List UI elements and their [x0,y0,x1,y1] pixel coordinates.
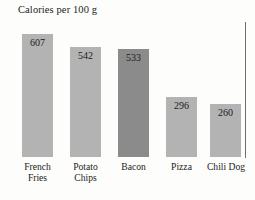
plot-area: 607French Fries542Potato Chips533Bacon29… [0,0,255,200]
bar-series: 607French Fries542Potato Chips533Bacon29… [0,0,255,200]
bar: 296 [166,97,197,157]
bar-value-label: 260 [210,107,241,118]
bar-value-label: 296 [166,100,197,111]
bar: 260 [210,104,241,157]
category-label: Chili Dog [200,161,252,172]
category-label: French Fries [14,161,61,183]
bar-value-label: 607 [22,37,53,48]
bar: 607 [22,34,53,157]
category-label: Potato Chips [62,161,109,183]
bar-chart-figure: Calories per 100 g 607French Fries542Pot… [0,0,255,200]
bar-value-label: 533 [118,52,149,63]
category-label: Pizza [158,161,205,172]
bar: 533 [118,49,149,157]
bar-value-label: 542 [70,50,101,61]
category-label: Bacon [110,161,157,172]
bar: 542 [70,47,101,157]
